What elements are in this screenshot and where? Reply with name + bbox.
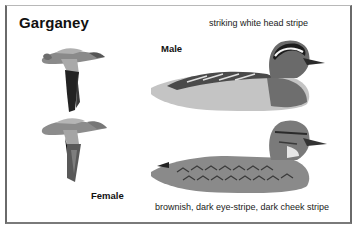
female-caption: brownish, dark eye-stripe, dark cheek st… <box>155 202 329 212</box>
field-guide-card: Garganey striking white head stripe Male… <box>5 5 352 224</box>
species-title: Garganey <box>19 14 89 31</box>
male-caption: striking white head stripe <box>209 18 308 28</box>
male-swimming-illustration <box>147 34 347 114</box>
male-flying-illustration <box>25 44 125 114</box>
female-label: Female <box>91 190 124 201</box>
female-flying-illustration <box>25 114 125 184</box>
female-swimming-illustration <box>147 114 347 194</box>
